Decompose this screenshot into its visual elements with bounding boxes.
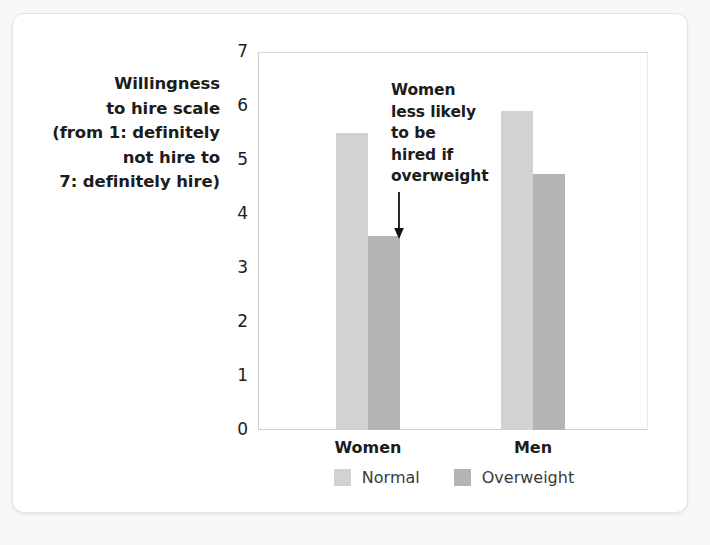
annotation-line: to be	[391, 123, 521, 145]
bar-women-normal	[336, 133, 368, 430]
legend-item-overweight: Overweight	[454, 468, 574, 487]
y-tick-label: 0	[208, 419, 248, 439]
y-tick-label: 3	[208, 257, 248, 277]
y-tick-label: 2	[208, 311, 248, 331]
y-tick-label: 4	[208, 203, 248, 223]
chart-legend: NormalOverweight	[258, 468, 650, 487]
y-tick-label: 1	[208, 365, 248, 385]
bar-men-overweight	[533, 174, 565, 431]
y-axis-caption-line: Willingness	[8, 72, 220, 97]
y-tick-label: 6	[208, 95, 248, 115]
annotation-callout: Women less likely to be hired if overwei…	[391, 80, 521, 188]
y-tick-label: 5	[208, 149, 248, 169]
annotation-line: hired if	[391, 145, 521, 167]
y-axis-caption-line: 7: definitely hire)	[8, 170, 220, 195]
y-tick-label: 7	[208, 41, 248, 61]
y-axis-caption-line: (from 1: definitely	[8, 121, 220, 146]
y-axis-caption-line: not hire to	[8, 146, 220, 171]
annotation-line: overweight	[391, 166, 521, 188]
legend-label: Normal	[362, 468, 420, 487]
chart-figure: Willingness to hire scale (from 1: defin…	[0, 0, 710, 545]
x-tick-label: Men	[463, 438, 603, 457]
legend-swatch-icon	[334, 469, 351, 486]
annotation-line: less likely	[391, 102, 521, 124]
down-arrow-icon	[389, 192, 409, 240]
legend-item-normal: Normal	[334, 468, 420, 487]
bar-women-overweight	[368, 236, 400, 430]
y-axis-caption-line: to hire scale	[8, 97, 220, 122]
x-tick-label: Women	[298, 438, 438, 457]
annotation-line: Women	[391, 80, 521, 102]
y-axis-caption: Willingness to hire scale (from 1: defin…	[8, 72, 220, 195]
legend-label: Overweight	[482, 468, 574, 487]
legend-swatch-icon	[454, 469, 471, 486]
